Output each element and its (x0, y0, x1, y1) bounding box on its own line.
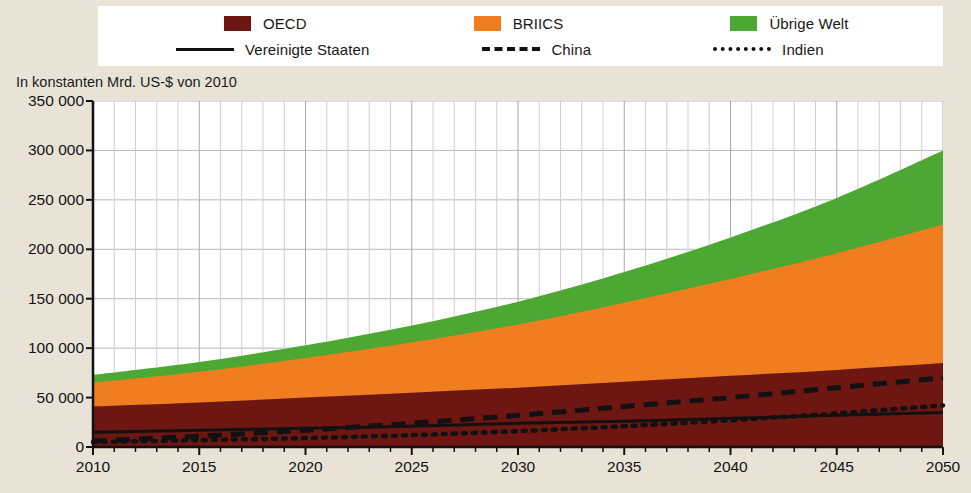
x-axis-tick-label: 2015 (182, 458, 216, 476)
x-axis-tick-label: 2050 (926, 458, 960, 476)
x-axis-tick-labels: 201020152020202520302035204020452050 (0, 0, 971, 493)
x-axis-tick-label: 2025 (395, 458, 429, 476)
x-axis-tick-label: 2030 (501, 458, 535, 476)
chart-page: OECD BRIICS Übrige Welt Vereinigte Staat… (0, 0, 971, 493)
x-axis-tick-label: 2020 (288, 458, 322, 476)
x-axis-tick-label: 2045 (820, 458, 854, 476)
x-axis-tick-label: 2035 (607, 458, 641, 476)
x-axis-tick-label: 2040 (713, 458, 747, 476)
x-axis-tick-label: 2010 (76, 458, 110, 476)
chart-plot-area: 350 000300 000250 000200 000150 000100 0… (0, 0, 971, 493)
